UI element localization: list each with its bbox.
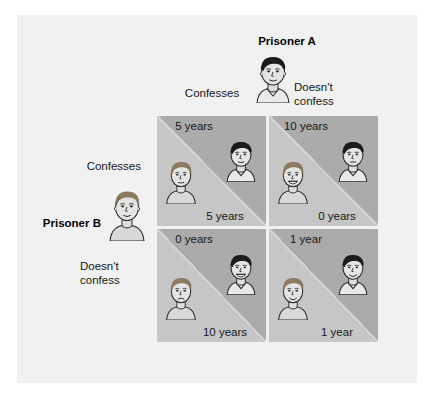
payoff-cell-top-right: 10 years — [269, 116, 378, 226]
column-header-confesses: Confesses — [162, 87, 262, 101]
payoff-b-value: 1 year — [300, 326, 374, 338]
row-header-doesnt-confess: Doesn't confess — [80, 260, 160, 287]
prisoner-b-portrait-icon — [105, 189, 149, 241]
payoff-cell-bottom-right: 1 year — [269, 229, 378, 342]
payoff-b-value: 5 years — [188, 210, 262, 222]
prisoners-dilemma-figure: Prisoner A Confesses Doesn' — [17, 15, 417, 383]
prisoner-b-face-icon — [162, 276, 200, 320]
payoff-matrix: 5 years — [157, 116, 378, 342]
prisoner-b-title: Prisoner B — [25, 217, 101, 231]
payoff-a-value: 5 years — [157, 120, 231, 132]
prisoner-b-face-icon — [274, 160, 312, 204]
prisoner-a-face-icon — [334, 253, 372, 295]
prisoner-a-face-icon — [222, 140, 260, 182]
prisoner-b-face-icon — [162, 160, 200, 204]
payoff-cell-top-left: 5 years — [157, 116, 266, 226]
prisoner-a-title: Prisoner A — [192, 35, 382, 49]
column-header-doesnt-confess: Doesn't confess — [294, 81, 372, 108]
prisoner-b-face-icon — [274, 276, 312, 320]
payoff-b-value: 0 years — [300, 210, 374, 222]
row-header-confesses: Confesses — [45, 160, 141, 174]
payoff-a-value: 0 years — [157, 233, 231, 245]
payoff-a-value: 1 year — [269, 233, 343, 245]
prisoner-a-face-icon — [222, 253, 260, 295]
prisoner-a-face-icon — [334, 140, 372, 182]
payoff-cell-bottom-left: 0 years — [157, 229, 266, 342]
payoff-b-value: 10 years — [188, 326, 262, 338]
payoff-a-value: 10 years — [269, 120, 343, 132]
